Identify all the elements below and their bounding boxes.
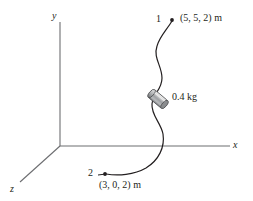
z-axis-label: z (10, 184, 14, 194)
y-axis-label: y (52, 11, 56, 21)
point-1-marker (170, 18, 174, 22)
figure-canvas (0, 0, 253, 201)
point-2-coordinates: (3, 0, 2) m (99, 180, 141, 190)
point-2-number: 2 (88, 168, 93, 178)
physics-figure: y x z 1 (5, 5, 2) m 0.4 kg 2 (3, 0, 2) m (0, 0, 253, 201)
z-axis (20, 146, 60, 182)
x-axis-label: x (233, 140, 237, 150)
point-1-number: 1 (156, 14, 161, 24)
collar-mass-label: 0.4 kg (172, 92, 197, 102)
point-1-coordinates: (5, 5, 2) m (180, 13, 222, 23)
